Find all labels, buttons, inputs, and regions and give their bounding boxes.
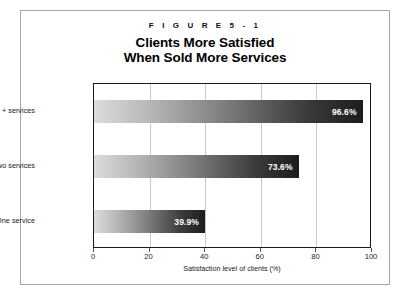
x-tick-label-20: 20 <box>144 252 152 261</box>
chart-title: Clients More Satisfied When Sold More Se… <box>21 35 389 65</box>
bar: 39.9% <box>94 210 205 233</box>
category-label: One service <box>0 217 35 224</box>
figure-number: F I G U R E 5 - 1 <box>21 21 389 30</box>
figure-frame: F I G U R E 5 - 1 Clients More Satisfied… <box>20 10 390 285</box>
chart-title-line-2: When Sold More Services <box>21 50 389 65</box>
bar: 73.6% <box>94 155 299 178</box>
bar-row: 96.6% <box>94 100 370 123</box>
category-label: Two services <box>0 162 35 169</box>
x-tick-label-0: 0 <box>91 252 95 261</box>
plot-area: 96.6%73.6%39.9% <box>93 83 371 248</box>
bar: 96.6% <box>94 100 363 123</box>
x-tick-label-60: 60 <box>256 252 264 261</box>
bar-value-label: 73.6% <box>268 162 299 172</box>
x-tick-label-100: 100 <box>365 252 378 261</box>
category-label: Three + services <box>0 107 35 114</box>
bar-row: 39.9% <box>94 210 370 233</box>
x-axis-label: Satisfaction level of clients (%) <box>93 264 371 273</box>
bars-group: 96.6%73.6%39.9% <box>94 84 370 247</box>
bar-value-label: 39.9% <box>174 217 205 227</box>
bar-row: 73.6% <box>94 155 370 178</box>
x-tick-label-80: 80 <box>311 252 319 261</box>
figure-page: SOURCE: RUSS ALAN PRINCE ANALYSIS; CEG W… <box>0 0 404 294</box>
chart-title-line-1: Clients More Satisfied <box>21 35 389 50</box>
x-tick-label-40: 40 <box>200 252 208 261</box>
bar-value-label: 96.6% <box>332 107 363 117</box>
